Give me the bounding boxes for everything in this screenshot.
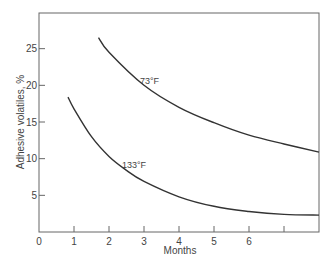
x-tick-label: 3 [141,236,147,247]
curve-labels: 73°F133°F [122,76,160,170]
y-axis-label: Adhesive volatiles, % [15,75,26,170]
y-tick-label: 15 [26,117,38,128]
x-tick-label: 5 [211,236,217,247]
x-tick-label: 2 [106,236,112,247]
y-tick-label: 5 [31,190,37,201]
plot-area [68,38,319,215]
plot-frame [39,13,319,232]
y-tick-label: 25 [26,43,38,54]
y-tick-label: 20 [26,80,38,91]
y-axis: 510152025 [26,43,45,201]
y-tick-label: 10 [26,153,38,164]
chart: 510152025 0123456 73°F133°F Months Adhes… [0,0,333,262]
x-axis-label: Months [164,245,197,256]
x-tick-label: 1 [71,236,77,247]
series-label: 133°F [122,160,147,170]
x-axis: 0123456 [36,226,284,247]
series-line [99,38,320,152]
x-tick-label: 6 [246,236,252,247]
x-tick-label: 0 [36,236,42,247]
series-label: 73°F [140,76,160,86]
